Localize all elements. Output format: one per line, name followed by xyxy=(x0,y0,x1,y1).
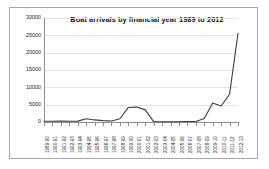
x-axis-tick-mark xyxy=(137,123,138,126)
x-axis-tick-mark xyxy=(204,123,205,126)
y-axis-tick-label: 0 xyxy=(11,119,41,124)
x-axis-tick-label: 1994-95 xyxy=(88,136,93,153)
x-axis-tick-mark xyxy=(154,123,155,126)
x-axis-tick-mark xyxy=(69,123,70,126)
x-axis-tick-label: 1993-94 xyxy=(79,136,84,153)
x-axis-tick-mark xyxy=(145,123,146,126)
y-axis-tick-label: 20000 xyxy=(11,50,41,55)
x-axis-tick-mark xyxy=(213,123,214,126)
x-axis-tick-mark xyxy=(128,123,129,126)
x-axis-tick-mark xyxy=(230,123,231,126)
x-axis-tick-label: 1996-97 xyxy=(105,136,110,153)
x-axis-tick-label: 2001-02 xyxy=(147,136,152,153)
x-axis-tick-label: 2003-04 xyxy=(164,136,169,153)
x-axis-tick-label: 1992-93 xyxy=(71,136,76,153)
x-axis-tick-label: 2005-06 xyxy=(181,136,186,153)
x-axis-tick-label: 1989-90 xyxy=(46,136,51,153)
x-axis-tick-label: 2012-13 xyxy=(240,136,245,153)
x-axis-tick-label: 1990-91 xyxy=(54,136,59,153)
y-axis-tick-label: 25000 xyxy=(11,33,41,38)
x-axis-tick-label: 1997-98 xyxy=(113,136,118,153)
chart-figure: Boat arrivals by financial year 1989 to … xyxy=(9,7,258,159)
x-axis-tick-mark xyxy=(103,123,104,126)
x-axis-tick-label: 2007-08 xyxy=(198,136,203,153)
x-axis-tick-label: 1999-00 xyxy=(130,136,135,153)
x-axis-tick-label: 2006-07 xyxy=(189,136,194,153)
x-axis-tick-mark xyxy=(221,123,222,126)
x-axis-tick-label: 1998-99 xyxy=(122,136,127,153)
x-axis-tick-labels: 1989-901990-911991-921992-931993-941994-… xyxy=(44,127,239,157)
x-axis-tick-label: 2002-03 xyxy=(155,136,160,153)
y-axis-tick-label: 5000 xyxy=(11,102,41,107)
chart-plot-wrapper: Boat arrivals by financial year 1989 to … xyxy=(10,8,257,158)
x-axis-tick-label: 2004-05 xyxy=(172,136,177,153)
x-axis-tick-mark xyxy=(196,123,197,126)
x-axis-tick-label: 2011-12 xyxy=(231,136,236,153)
x-axis-tick-label: 1995-96 xyxy=(96,136,101,153)
x-axis-tick-mark xyxy=(187,123,188,126)
x-axis-tick-mark xyxy=(120,123,121,126)
x-axis-tick-mark xyxy=(95,123,96,126)
data-series-line xyxy=(44,18,238,122)
x-axis-tick-mark xyxy=(162,123,163,126)
y-axis-tick-label: 15000 xyxy=(11,67,41,72)
y-axis-tick-label: 30000 xyxy=(11,15,41,20)
x-axis-tick-label: 2008-09 xyxy=(206,136,211,153)
y-axis-tick-labels: 050001000015000200002500030000 xyxy=(10,18,41,122)
x-axis-tick-label: 2000-01 xyxy=(138,136,143,153)
x-axis-tick-mark xyxy=(86,123,87,126)
x-axis-tick-mark xyxy=(78,123,79,126)
x-axis-tick-mark xyxy=(61,123,62,126)
x-axis-tick-mark xyxy=(238,123,239,126)
x-axis-tick-label: 2009-10 xyxy=(214,136,219,153)
x-axis-tick-label: 1991-92 xyxy=(63,136,68,153)
boat-arrivals-line xyxy=(44,33,238,122)
x-axis-tick-mark xyxy=(44,123,45,126)
x-axis-tick-label: 2010-11 xyxy=(223,136,228,153)
y-axis-tick-label: 10000 xyxy=(11,85,41,90)
x-axis-tick-mark xyxy=(179,123,180,126)
x-axis-tick-mark xyxy=(111,123,112,126)
x-axis-tick-mark xyxy=(171,123,172,126)
x-axis-tick-mark xyxy=(52,123,53,126)
